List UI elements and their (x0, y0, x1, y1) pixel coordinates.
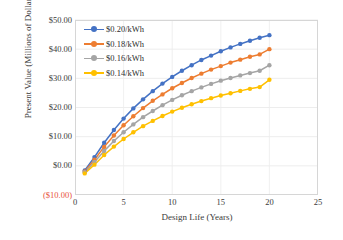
legend-label: $0.16/kWh (104, 53, 144, 63)
x-axis-tick-label: 0 (60, 197, 90, 207)
x-axis-tick-label: 10 (157, 197, 187, 207)
x-axis-tick-label: 5 (109, 197, 139, 207)
y-axis-tick-label: $40.00 (26, 45, 72, 54)
legend-marker-icon (84, 53, 104, 63)
y-axis-tick-label: $50.00 (26, 16, 72, 25)
y-axis-tick-label: $0.00 (26, 161, 72, 170)
x-axis-tick-label: 25 (303, 197, 333, 207)
legend-item[interactable]: $0.20/kWh (84, 22, 174, 37)
legend-marker-icon (84, 24, 104, 34)
chart-container: Present Value (Millions of Dollars) ($10… (0, 0, 343, 240)
legend-label: $0.18/kWh (104, 39, 144, 49)
legend-marker-icon (84, 39, 104, 49)
x-axis-title: Design Life (Years) (75, 212, 319, 222)
chart-legend: $0.20/kWh$0.18/kWh$0.16/kWh$0.14/kWh (84, 20, 174, 80)
y-axis-tick-label: $10.00 (26, 132, 72, 141)
y-axis-tick-label: $20.00 (26, 103, 72, 112)
legend-item[interactable]: $0.16/kWh (84, 51, 174, 66)
legend-item[interactable]: $0.14/kWh (84, 66, 174, 81)
legend-item[interactable]: $0.18/kWh (84, 37, 174, 52)
legend-label: $0.14/kWh (104, 68, 144, 78)
legend-marker-icon (84, 68, 104, 78)
legend-label: $0.20/kWh (104, 24, 144, 34)
y-axis-tick-label: $30.00 (26, 74, 72, 83)
x-axis-tick-label: 20 (254, 197, 284, 207)
x-axis-tick-label: 15 (206, 197, 236, 207)
